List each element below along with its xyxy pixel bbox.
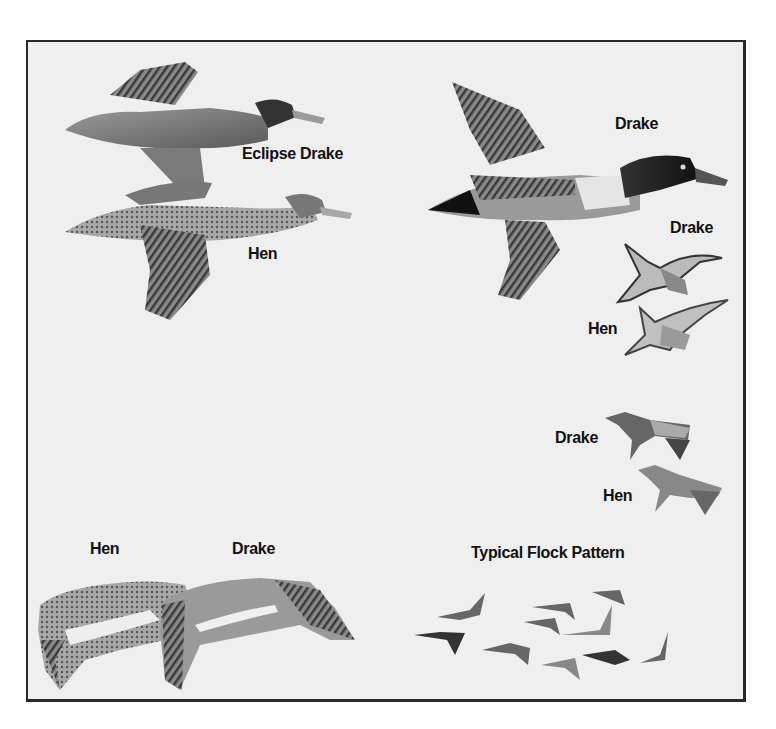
eclipse-drake-illustration (65, 62, 325, 188)
wing-hen-label: Hen (90, 541, 119, 557)
flock-pattern-illustration (414, 590, 668, 680)
flock-pattern-title: Typical Flock Pattern (471, 545, 624, 561)
wing-drake-label: Drake (232, 541, 275, 557)
drake-wing-illustration (160, 578, 355, 690)
side-hen-label: Hen (603, 488, 632, 504)
overhead-drake-label: Drake (670, 220, 713, 236)
eclipse-drake-label: Eclipse Drake (242, 146, 343, 162)
overhead-drake-illustration (618, 244, 722, 302)
overhead-hen-illustration (625, 300, 728, 355)
duck-illustrations (0, 0, 776, 729)
side-drake-label: Drake (555, 430, 598, 446)
small-hen-side-illustration (638, 465, 722, 515)
large-drake-label: Drake (615, 116, 658, 132)
upper-left-hen-label: Hen (248, 246, 277, 262)
hen-illustration (65, 182, 352, 320)
overhead-hen-label: Hen (588, 321, 617, 337)
small-drake-side-illustration (605, 412, 690, 460)
